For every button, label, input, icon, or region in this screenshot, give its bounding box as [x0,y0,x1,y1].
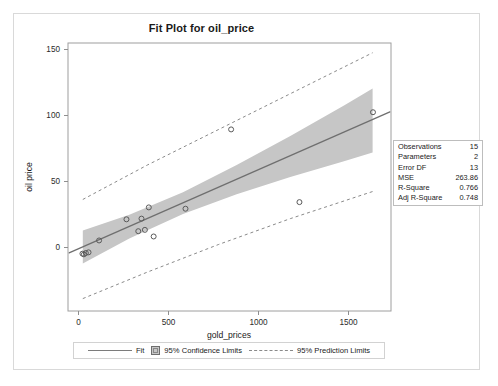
x-axis: 0 500 1000 1500 gold_prices [76,311,358,340]
legend-label-fit: Fit [136,346,144,355]
stats-row: Parameters2 [394,152,482,162]
fit-line-swatch-icon [88,350,132,351]
stats-row-value: 0.766 [450,183,482,193]
stats-row-value: 13 [450,163,482,173]
x-tick-label: 500 [162,318,176,327]
y-tick-label: 50 [51,177,61,186]
stats-row-label: Error DF [394,163,450,173]
y-axis: 150 100 50 0 oil price [24,45,68,252]
y-tick-100: 100 [46,111,68,120]
stats-row: Observations15 [394,142,482,152]
x-tick-0: 0 [76,311,81,327]
y-tick-150: 150 [46,45,68,54]
y-tick-label: 100 [46,111,60,120]
confidence-band-swatch-icon [151,346,160,355]
x-tick-label: 1500 [339,318,358,327]
stats-row-value: 15 [450,142,482,152]
stats-row-value: 2 [450,152,482,162]
y-tick-label: 150 [46,45,60,54]
legend-entry-confidence[interactable]: 95% Confidence Limits [151,346,242,355]
y-axis-title: oil price [24,162,34,192]
stats-row-label: Observations [394,142,450,152]
prediction-limit-swatch-icon [249,350,293,351]
legend-label-confidence: 95% Confidence Limits [164,346,242,355]
stats-row-label: Adj R-Square [394,193,450,203]
stats-row: Adj R-Square0.748 [394,193,482,203]
plot-legend: Fit 95% Confidence Limits 95% Prediction… [73,342,385,359]
stats-row: R-Square0.766 [394,183,482,193]
stats-row-label: Parameters [394,152,450,162]
statistics-table: Observations15Parameters2Error DF13MSE26… [393,140,483,206]
stats-row: MSE263.86 [394,173,482,183]
y-tick-50: 50 [51,177,68,186]
y-tick-label: 0 [55,243,60,252]
stats-row: Error DF13 [394,163,482,173]
fit-plot-panel: Fit Plot for oil_price 150 100 50 0 [13,13,480,370]
stats-row-value: 0.748 [450,193,482,203]
stats-row-label: R-Square [394,183,450,193]
legend-entry-prediction[interactable]: 95% Prediction Limits [249,346,370,355]
x-tick-1500: 1500 [339,311,358,327]
x-tick-1000: 1000 [249,311,268,327]
stats-row-label: MSE [394,173,450,183]
x-tick-label: 0 [76,318,81,327]
x-tick-label: 1000 [249,318,268,327]
x-tick-500: 500 [162,311,176,327]
legend-label-prediction: 95% Prediction Limits [297,346,370,355]
y-tick-0: 0 [55,243,68,252]
x-axis-title: gold_prices [207,330,251,340]
legend-entry-fit[interactable]: Fit [88,346,144,355]
stats-row-value: 263.86 [450,173,482,183]
